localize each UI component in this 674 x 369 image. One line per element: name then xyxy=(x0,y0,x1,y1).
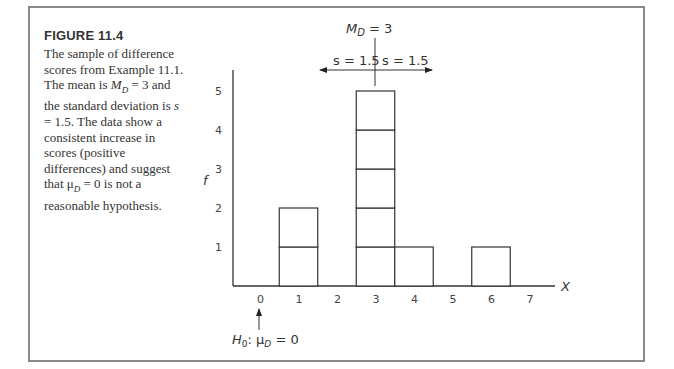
histogram-box xyxy=(279,247,318,286)
x-tick-label: 4 xyxy=(411,293,418,306)
y-axis-label: f xyxy=(203,173,210,188)
histogram-bars xyxy=(279,91,510,286)
y-tick-label: 4 xyxy=(215,124,222,137)
y-tick-label: 3 xyxy=(215,163,222,176)
histogram-box xyxy=(356,91,395,130)
x-tick-label: 0 xyxy=(257,293,264,306)
histogram-box xyxy=(356,130,395,169)
h0-label: H0: μD = 0 xyxy=(232,332,299,349)
x-tick-label: 2 xyxy=(334,293,341,306)
x-tick-label: 5 xyxy=(450,293,457,306)
x-axis-label: X xyxy=(560,279,571,294)
x-tick-label: 7 xyxy=(527,293,534,306)
histogram-box xyxy=(356,208,395,247)
y-tick-label: 5 xyxy=(215,85,222,98)
histogram-box xyxy=(279,208,318,247)
sd-left-label: s = 1.5 xyxy=(333,53,380,68)
mean-label: MD = 3 xyxy=(346,21,392,38)
x-tick-label: 1 xyxy=(296,293,303,306)
x-tick-label: 3 xyxy=(373,293,380,306)
histogram-box xyxy=(472,247,511,286)
histogram-box xyxy=(356,169,395,208)
histogram-box xyxy=(395,247,434,286)
y-tick-label: 1 xyxy=(215,241,222,254)
x-tick-labels: 01234567 xyxy=(257,293,534,306)
x-tick-label: 6 xyxy=(488,293,495,306)
y-tick-label: 2 xyxy=(215,202,222,215)
y-tick-labels: 12345 xyxy=(215,85,222,254)
sd-right-label: s = 1.5 xyxy=(382,53,429,68)
histogram-chart: X f 12345 01234567 MD = 3 s = 1.5 s = 1.… xyxy=(0,0,674,369)
histogram-box xyxy=(356,247,395,286)
